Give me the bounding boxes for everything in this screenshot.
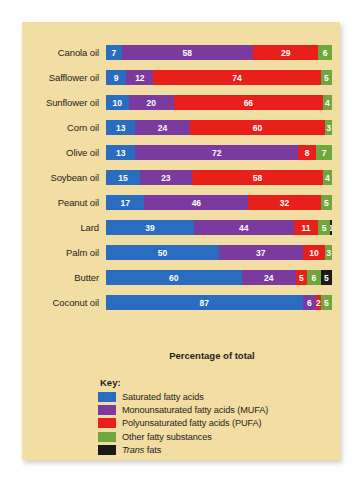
legend-item: Polyunsaturated fatty acids (PUFA) bbox=[98, 418, 268, 428]
legend-item: Trans fats bbox=[98, 445, 268, 455]
legend-swatch-mufa bbox=[98, 405, 116, 415]
bar-row: Butter6024565 bbox=[22, 269, 340, 286]
bar-track: 6024565 bbox=[106, 270, 332, 285]
bar-track: 758296 bbox=[106, 45, 332, 60]
bar-segment-sat: 13 bbox=[106, 145, 135, 160]
bar-segment-value: 24 bbox=[264, 273, 273, 283]
bar-segment-value: 60 bbox=[253, 123, 262, 133]
bar-segment-value: 13 bbox=[116, 148, 125, 158]
bar-segment-value: 13 bbox=[116, 123, 125, 133]
bar-segment-mufa: 24 bbox=[135, 120, 189, 135]
bar-segment-value: 10 bbox=[113, 98, 122, 108]
bar-segment-value: 3 bbox=[326, 248, 331, 258]
bar-segment-sat: 60 bbox=[106, 270, 242, 285]
bar-row-label: Palm oil bbox=[22, 247, 106, 258]
bar-row: Corn oil1324603 bbox=[22, 119, 340, 136]
bar-track: 39441151 bbox=[106, 220, 332, 235]
bar-segment-mufa: 20 bbox=[129, 95, 174, 110]
bar-row: Olive oil137287 bbox=[22, 144, 340, 161]
bar-row-label: Olive oil bbox=[22, 147, 106, 158]
bar-segment-value: 6 bbox=[312, 273, 317, 283]
bar-segment-value: 37 bbox=[256, 248, 265, 258]
bar-segment-mufa: 37 bbox=[219, 245, 303, 260]
bar-segment-value: 50 bbox=[158, 248, 167, 258]
bar-segment-value: 4 bbox=[325, 98, 330, 108]
legend-item-label: Monounsaturated fatty acids (MUFA) bbox=[122, 405, 268, 415]
bar-segment-pufa: 5 bbox=[296, 270, 307, 285]
bar-segment-value: 46 bbox=[192, 198, 201, 208]
bar-segment-other: 3 bbox=[325, 245, 332, 260]
bar-segment-sat: 7 bbox=[106, 45, 122, 60]
bar-segment-pufa: 60 bbox=[190, 120, 326, 135]
bar-segment-value: 6 bbox=[323, 48, 328, 58]
bar-row: Lard39441151 bbox=[22, 219, 340, 236]
legend-item-label: Saturated fatty acids bbox=[122, 392, 204, 402]
bar-segment-pufa: 74 bbox=[153, 70, 320, 85]
bar-segment-pufa: 11 bbox=[294, 220, 319, 235]
bar-segment-other: 7 bbox=[316, 145, 332, 160]
bar-track: 5037103 bbox=[106, 245, 332, 260]
bar-row: Peanut oil1746325 bbox=[22, 194, 340, 211]
bar-track: 87625 bbox=[106, 295, 332, 310]
bar-segment-mufa: 46 bbox=[144, 195, 248, 210]
legend-swatch-pufa bbox=[98, 418, 116, 428]
chart-legend: Key: Saturated fatty acidsMonounsaturate… bbox=[98, 377, 268, 458]
bar-segment-pufa: 8 bbox=[298, 145, 316, 160]
bar-segment-value: 4 bbox=[325, 173, 330, 183]
bar-segment-trans: 5 bbox=[321, 270, 332, 285]
bar-segment-value: 23 bbox=[161, 173, 170, 183]
bar-segment-value: 32 bbox=[280, 198, 289, 208]
legend-swatch-other bbox=[98, 432, 116, 442]
bar-segment-value: 5 bbox=[324, 198, 329, 208]
bar-segment-value: 7 bbox=[322, 148, 327, 158]
bar-segment-sat: 50 bbox=[106, 245, 219, 260]
bar-segment-other: 5 bbox=[321, 195, 332, 210]
bar-segment-value: 5 bbox=[322, 223, 327, 233]
x-axis-title: Percentage of total bbox=[99, 350, 325, 361]
bar-segment-sat: 87 bbox=[106, 295, 303, 310]
bar-track: 1523584 bbox=[106, 170, 332, 185]
bar-row-label: Canola oil bbox=[22, 47, 106, 58]
bar-segment-other: 5 bbox=[318, 220, 329, 235]
legend-item: Saturated fatty acids bbox=[98, 392, 268, 402]
legend-item: Other fatty substances bbox=[98, 432, 268, 442]
bar-segment-value: 3 bbox=[326, 123, 331, 133]
bar-row-label: Sunflower oil bbox=[22, 97, 106, 108]
bar-row-label: Safflower oil bbox=[22, 72, 106, 83]
bar-segment-mufa: 23 bbox=[140, 170, 192, 185]
bar-segment-sat: 15 bbox=[106, 170, 140, 185]
bar-segment-value: 20 bbox=[146, 98, 155, 108]
bar-segment-value: 58 bbox=[253, 173, 262, 183]
bar-segment-other: 5 bbox=[321, 70, 332, 85]
bar-row: Palm oil5037103 bbox=[22, 244, 340, 261]
bar-segment-value: 12 bbox=[135, 73, 144, 83]
legend-title: Key: bbox=[98, 377, 268, 388]
bar-segment-sat: 10 bbox=[106, 95, 129, 110]
bar-segment-sat: 9 bbox=[106, 70, 126, 85]
bar-row: Canola oil758296 bbox=[22, 44, 340, 61]
bar-row: Safflower oil912745 bbox=[22, 69, 340, 86]
bar-row: Coconut oil87625 bbox=[22, 294, 340, 311]
legend-items: Saturated fatty acidsMonounsaturated fat… bbox=[98, 392, 268, 455]
bar-segment-mufa: 12 bbox=[126, 70, 153, 85]
bar-segment-other: 3 bbox=[325, 120, 332, 135]
stacked-bar-chart: Canola oil758296Safflower oil912745Sunfl… bbox=[22, 44, 340, 319]
bar-track: 1324603 bbox=[106, 120, 332, 135]
bar-segment-sat: 17 bbox=[106, 195, 144, 210]
bar-row: Sunflower oil1020664 bbox=[22, 94, 340, 111]
bar-row: Soybean oil1523584 bbox=[22, 169, 340, 186]
figure-card: Canola oil758296Safflower oil912745Sunfl… bbox=[22, 22, 340, 460]
bar-segment-value: 11 bbox=[301, 223, 310, 233]
bar-segment-mufa: 6 bbox=[303, 295, 317, 310]
bar-track: 1020664 bbox=[106, 95, 332, 110]
bar-segment-value: 9 bbox=[114, 73, 119, 83]
bar-segment-value: 17 bbox=[120, 198, 129, 208]
bar-row-label: Lard bbox=[22, 222, 106, 233]
bar-segment-pufa: 32 bbox=[248, 195, 320, 210]
bar-segment-other: 6 bbox=[318, 45, 332, 60]
legend-label-italic: Trans bbox=[122, 445, 144, 455]
bar-segment-sat: 39 bbox=[106, 220, 194, 235]
legend-swatch-sat bbox=[98, 392, 116, 402]
bar-segment-value: 8 bbox=[305, 148, 310, 158]
legend-item: Monounsaturated fatty acids (MUFA) bbox=[98, 405, 268, 415]
